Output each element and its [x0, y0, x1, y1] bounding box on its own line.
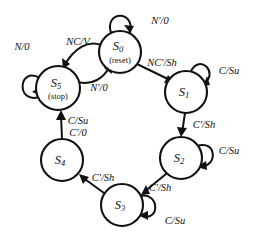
edge-label-s0-s1: NC′/Sh: [146, 57, 177, 68]
state-node-s0[interactable]: S0 (reset): [99, 31, 141, 73]
arrowhead-s4-s5: [56, 110, 66, 120]
state-node-s5[interactable]: S5 (stop): [36, 66, 80, 110]
fsm-canvas: S0 (reset) S1 S2 S3 S4: [0, 0, 258, 238]
arrowhead-s1-s2: [177, 127, 187, 137]
state-node-s3[interactable]: S3: [101, 184, 143, 226]
edge-label-s1-self: C/Su: [219, 65, 239, 76]
state-node-s1[interactable]: S1: [165, 71, 207, 113]
edge-label-s3-s4: C′/Sh: [92, 172, 115, 183]
transition-s1-to-s2: [177, 113, 187, 137]
edge-label-s3-self: C/Su: [165, 215, 185, 226]
edge-label-s5-s0: N′/0: [89, 82, 108, 93]
state-diagram: S0 (reset) S1 S2 S3 S4: [0, 0, 258, 238]
edge-label-s2-self: C/Su: [219, 145, 239, 156]
state-node-s2[interactable]: S2: [160, 137, 202, 179]
edge-label-s2-s3: C′/Sh: [149, 182, 172, 193]
transition-s4-to-s5: [56, 110, 66, 139]
edge-label-s1-s2: C′/Sh: [193, 119, 216, 130]
edge-label-s5-self: N/0: [13, 41, 30, 52]
edge-label-s4-s5-primary: C/Su: [68, 115, 88, 126]
edge-label-s0-self: N′/0: [150, 15, 169, 26]
state-sublabel-s0: (reset): [109, 55, 131, 65]
state-node-s4[interactable]: S4: [41, 139, 83, 181]
edge-label-s0-s5: NC/V: [65, 36, 91, 47]
arrowhead-s3-s4: [79, 174, 89, 184]
state-sublabel-s5: (stop): [48, 91, 68, 101]
edge-label-s4-s5-secondary: C′/0: [69, 127, 87, 138]
